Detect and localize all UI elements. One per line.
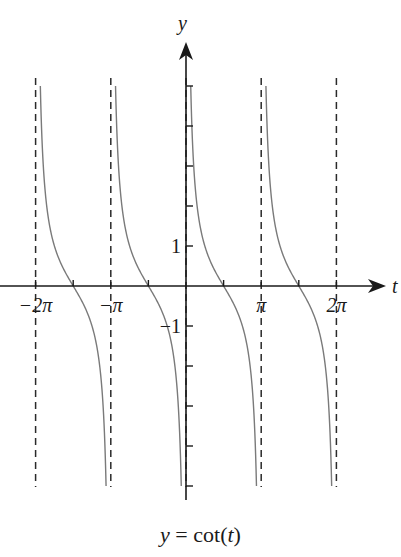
caption-y: y (160, 522, 170, 547)
caption-func: cot( (193, 522, 227, 547)
x-tick-label: 2π (326, 294, 347, 316)
x-tick-label: −2π (19, 294, 53, 316)
y-axis-label: y (176, 12, 187, 35)
x-axis-label: t (392, 275, 398, 297)
chart-caption: y = cot(t) (0, 522, 401, 548)
y-tick-label: 1 (171, 235, 181, 257)
x-tick-label: π (256, 294, 267, 316)
x-tick-label: −π (99, 294, 123, 316)
cotangent-chart: −2π−ππ2π1−1 t y (0, 0, 401, 515)
axes (0, 42, 386, 500)
caption-close: ) (234, 522, 241, 547)
caption-equals: = (175, 522, 187, 547)
y-tick-label: −1 (160, 315, 181, 337)
